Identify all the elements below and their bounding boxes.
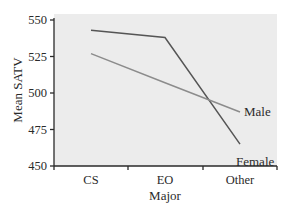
y-axis-title: Mean SATV [10, 57, 25, 123]
y-tick-label: 550 [28, 13, 47, 27]
x-axis-title: Major [149, 188, 181, 203]
y-tick-label: 500 [28, 86, 47, 100]
line-chart: 450475500525550 CSEOOther FemaleMale Mea… [0, 0, 297, 217]
x-axis: CSEOOther [54, 166, 277, 187]
x-tick-label: EO [157, 173, 174, 187]
series-label-male: Male [244, 104, 271, 119]
y-tick-label: 450 [28, 159, 47, 173]
x-tick-label: CS [83, 173, 98, 187]
y-tick-label: 475 [28, 123, 47, 137]
plot-area [54, 14, 277, 166]
series-label-female: Female [236, 154, 274, 169]
y-tick-label: 525 [28, 50, 47, 64]
y-axis: 450475500525550 [28, 13, 54, 173]
x-tick-label: Other [226, 173, 255, 187]
